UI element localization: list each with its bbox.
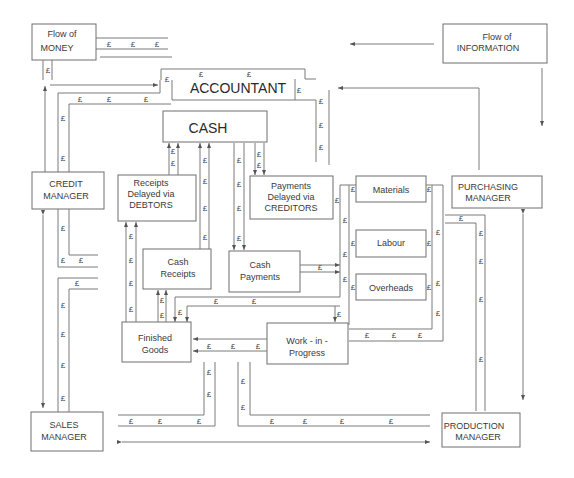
svg-text:£: £ bbox=[392, 331, 397, 340]
svg-text:£: £ bbox=[256, 342, 261, 351]
svg-text:£: £ bbox=[459, 214, 464, 223]
legend-information: Flow of INFORMATION bbox=[350, 24, 547, 126]
svg-text:Materials: Materials bbox=[373, 185, 410, 195]
svg-text:£: £ bbox=[436, 279, 441, 288]
svg-text:MANAGER: MANAGER bbox=[455, 432, 501, 442]
svg-text:Receipts: Receipts bbox=[160, 269, 196, 279]
svg-text:£: £ bbox=[237, 156, 242, 165]
svg-text:£: £ bbox=[160, 311, 165, 320]
svg-text:£: £ bbox=[129, 232, 134, 241]
svg-text:£: £ bbox=[340, 417, 345, 426]
svg-text:£: £ bbox=[427, 283, 432, 292]
svg-text:£: £ bbox=[337, 310, 342, 319]
svg-text:£: £ bbox=[252, 297, 257, 306]
svg-text:£: £ bbox=[319, 97, 324, 106]
svg-text:£: £ bbox=[479, 257, 484, 266]
node-work-in-progress: Work - in - Progress £ £ £ bbox=[193, 323, 348, 364]
svg-text:£: £ bbox=[203, 233, 208, 242]
svg-text:Payments: Payments bbox=[240, 272, 281, 282]
svg-text:£: £ bbox=[479, 229, 484, 238]
svg-text:Work - in -: Work - in - bbox=[286, 336, 327, 346]
svg-text:£: £ bbox=[343, 250, 348, 259]
svg-text:£: £ bbox=[303, 417, 308, 426]
svg-text:£: £ bbox=[241, 377, 246, 386]
svg-text:£: £ bbox=[479, 295, 484, 304]
svg-text:£: £ bbox=[61, 301, 66, 310]
svg-text:£: £ bbox=[389, 417, 394, 426]
svg-text:£: £ bbox=[343, 275, 348, 284]
svg-text:£: £ bbox=[427, 239, 432, 248]
svg-text:MANAGER: MANAGER bbox=[43, 191, 89, 201]
svg-text:£: £ bbox=[165, 75, 170, 84]
svg-text:Progress: Progress bbox=[289, 348, 326, 358]
svg-text:£: £ bbox=[158, 417, 163, 426]
svg-text:£: £ bbox=[343, 216, 348, 225]
svg-text:£: £ bbox=[131, 40, 136, 49]
svg-text:£: £ bbox=[203, 156, 208, 165]
svg-text:£: £ bbox=[79, 256, 84, 265]
svg-text:£: £ bbox=[418, 331, 423, 340]
svg-text:DEBTORS: DEBTORS bbox=[129, 200, 172, 210]
svg-text:£: £ bbox=[61, 114, 66, 123]
svg-text:£: £ bbox=[237, 180, 242, 189]
svg-text:£: £ bbox=[129, 417, 134, 426]
svg-text:£: £ bbox=[237, 204, 242, 213]
node-cash: CASH bbox=[163, 111, 267, 142]
svg-text:£: £ bbox=[479, 355, 484, 364]
svg-text:£: £ bbox=[61, 361, 66, 370]
node-materials: Materials £ £ bbox=[351, 176, 432, 202]
svg-text:£: £ bbox=[171, 159, 176, 168]
svg-text:MANAGER: MANAGER bbox=[41, 432, 87, 442]
svg-text:£: £ bbox=[237, 234, 242, 243]
svg-text:£: £ bbox=[318, 263, 323, 272]
svg-text:ACCOUNTANT: ACCOUNTANT bbox=[190, 80, 287, 96]
svg-text:INFORMATION: INFORMATION bbox=[457, 43, 519, 53]
svg-text:£: £ bbox=[207, 368, 212, 377]
node-purchasing-manager: PURCHASING MANAGER £ £ £ £ £ bbox=[445, 176, 542, 411]
svg-text:£: £ bbox=[75, 279, 80, 288]
node-payments-delayed-creditors: Payments Delayed via CREDITORS bbox=[250, 176, 333, 219]
svg-text:£: £ bbox=[46, 66, 51, 75]
node-receipts-delayed-debtors: Receipts Delayed via DEBTORS £ £ bbox=[118, 143, 196, 221]
svg-text:Flow of: Flow of bbox=[482, 32, 512, 42]
svg-text:£: £ bbox=[335, 196, 340, 205]
svg-text:£: £ bbox=[257, 150, 262, 159]
svg-text:£: £ bbox=[436, 228, 441, 237]
svg-text:Cash: Cash bbox=[167, 257, 188, 267]
svg-text:Flow of: Flow of bbox=[47, 29, 77, 39]
svg-text:£: £ bbox=[351, 185, 356, 194]
money-information-flow-diagram: Flow of MONEY £ £ £ £ Flow of INFORMATIO… bbox=[0, 0, 574, 478]
node-credit-manager: CREDIT MANAGER bbox=[32, 172, 104, 209]
svg-text:£: £ bbox=[297, 86, 302, 95]
svg-text:Finished: Finished bbox=[138, 333, 172, 343]
svg-text:£: £ bbox=[155, 40, 160, 49]
svg-text:£: £ bbox=[214, 297, 219, 306]
svg-text:£: £ bbox=[61, 154, 66, 163]
svg-text:PURCHASING: PURCHASING bbox=[458, 182, 518, 192]
svg-text:£: £ bbox=[199, 70, 204, 79]
svg-text:CREDIT: CREDIT bbox=[49, 179, 83, 189]
svg-text:£: £ bbox=[241, 403, 246, 412]
svg-text:Payments: Payments bbox=[271, 181, 312, 191]
svg-text:£: £ bbox=[78, 95, 83, 104]
svg-text:£: £ bbox=[351, 239, 356, 248]
svg-text:£: £ bbox=[247, 70, 252, 79]
svg-text:Cash: Cash bbox=[249, 260, 270, 270]
svg-text:£: £ bbox=[61, 394, 66, 403]
svg-text:£: £ bbox=[231, 342, 236, 351]
legend-money: Flow of MONEY £ £ £ £ bbox=[32, 24, 172, 80]
svg-text:£: £ bbox=[61, 256, 66, 265]
svg-text:MONEY: MONEY bbox=[40, 43, 73, 53]
svg-text:£: £ bbox=[178, 308, 183, 317]
svg-text:Overheads: Overheads bbox=[369, 283, 414, 293]
svg-text:£: £ bbox=[270, 417, 275, 426]
svg-text:£: £ bbox=[319, 121, 324, 130]
svg-text:£: £ bbox=[427, 185, 432, 194]
svg-text:£: £ bbox=[129, 305, 134, 314]
svg-text:£: £ bbox=[144, 95, 149, 104]
svg-text:£: £ bbox=[197, 417, 202, 426]
svg-text:Labour: Labour bbox=[377, 238, 405, 248]
svg-text:Goods: Goods bbox=[142, 345, 169, 355]
svg-text:CREDITORS: CREDITORS bbox=[265, 203, 318, 213]
svg-text:£: £ bbox=[61, 330, 66, 339]
